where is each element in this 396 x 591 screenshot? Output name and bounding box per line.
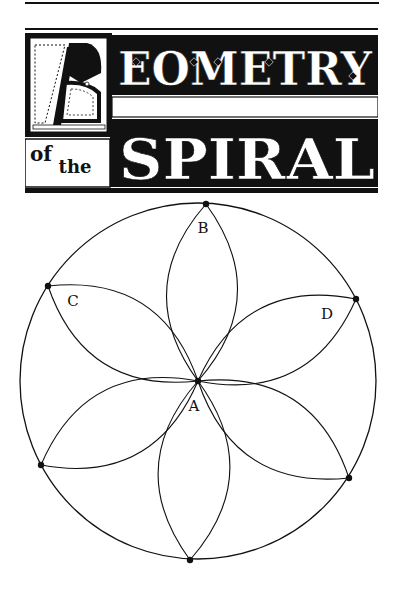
label-d: D — [321, 305, 333, 323]
label-a: A — [188, 397, 200, 415]
label-b: B — [197, 219, 208, 237]
banner-bottom-rule — [25, 188, 378, 193]
upper-banner-rule — [25, 28, 378, 30]
point-dot — [38, 462, 44, 468]
point-dot — [187, 557, 193, 563]
word-the: the — [59, 156, 92, 177]
point-dot — [346, 475, 352, 481]
point-dot — [195, 378, 201, 384]
top-rule — [25, 2, 379, 4]
title-line-1-band: EOMETRY — [112, 35, 378, 96]
initial-letter-panel: G — [25, 33, 112, 137]
petal-arc — [198, 381, 349, 479]
label-c: C — [67, 292, 78, 310]
title-divider-strip — [112, 97, 378, 117]
rosette-diagram: ABCD — [0, 195, 396, 591]
of-the-panel: of the — [25, 139, 110, 187]
word-of: of — [30, 142, 53, 166]
point-dot — [203, 201, 209, 207]
title-line-2: SPIRAL — [119, 126, 375, 192]
point-dot — [353, 296, 359, 302]
point-dot — [45, 283, 51, 289]
title-line-1: EOMETRY — [118, 42, 373, 96]
petal-arc — [198, 380, 349, 478]
title-line-2-band: SPIRAL — [110, 119, 378, 192]
construction-points — [38, 201, 359, 563]
title-banner: G EOMETRY of the SPIRAL — [25, 33, 378, 188]
